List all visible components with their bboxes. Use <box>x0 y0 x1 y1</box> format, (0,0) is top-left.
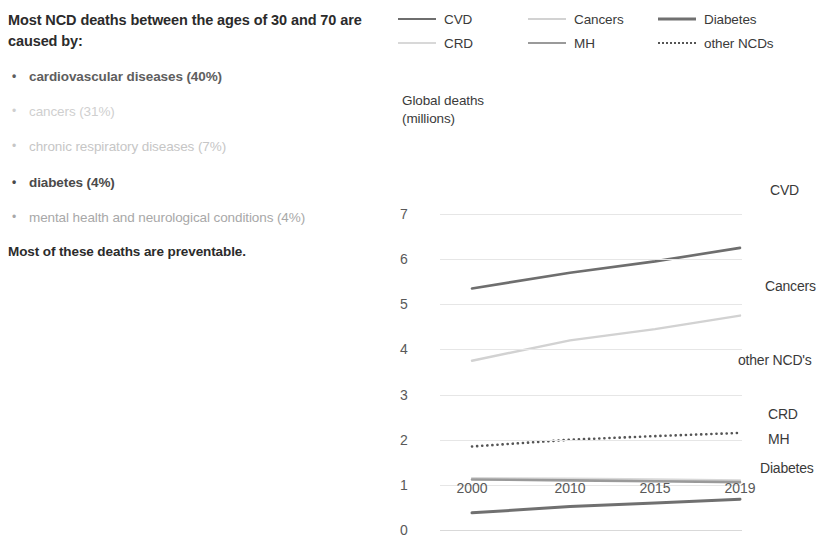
y-axis-title: Global deaths (millions) <box>402 92 484 128</box>
legend-item-diabetes: Diabetes <box>658 12 826 27</box>
y-axis-tick-label: 1 <box>400 477 422 493</box>
gridline <box>440 440 742 441</box>
legend-item-crd: CRD <box>398 36 528 51</box>
legend-item-cvd: CVD <box>398 12 528 27</box>
y-axis-tick-label: 6 <box>400 251 422 267</box>
chart-legend: CVDCancersDiabetesCRDMHother NCDs <box>398 7 826 55</box>
x-axis-tick-label: 2019 <box>724 480 755 496</box>
bullet-dot-icon: • <box>8 174 29 190</box>
list-item: •chronic respiratory diseases (7%) <box>8 138 398 156</box>
series-label: MH <box>768 431 789 447</box>
series-label: CRD <box>768 406 798 422</box>
legend-item-other-ncds: other NCDs <box>658 36 826 51</box>
series-label: other NCD's <box>738 352 812 368</box>
x-axis-tick-label: 2015 <box>639 480 670 496</box>
list-item-label: mental health and neurological condition… <box>29 209 398 227</box>
series-line-cancers <box>472 316 740 361</box>
closing-statement: Most of these deaths are preventable. <box>8 244 398 259</box>
y-axis-tick-label: 5 <box>400 296 422 312</box>
series-label: Diabetes <box>760 460 814 476</box>
list-item: •mental health and neurological conditio… <box>8 209 398 227</box>
plot-area: 765432102000201020152019 <box>398 150 828 475</box>
bullet-dot-icon: • <box>8 103 29 119</box>
x-axis-line <box>440 530 742 531</box>
y-axis-title-line2: (millions) <box>402 110 484 128</box>
gridline <box>440 214 742 215</box>
legend-item-cancers: Cancers <box>528 12 658 27</box>
series-lines <box>398 150 828 475</box>
legend-swatch-icon <box>528 41 566 45</box>
legend-swatch-icon <box>398 17 436 21</box>
y-axis-tick-label: 0 <box>400 522 422 538</box>
legend-swatch-icon <box>528 17 566 21</box>
list-item-label: cancers (31%) <box>29 103 398 121</box>
legend-label: Diabetes <box>704 12 756 27</box>
gridline <box>440 259 742 260</box>
list-item: •cardiovascular diseases (40%) <box>8 68 398 86</box>
legend-swatch-icon <box>398 41 436 45</box>
series-label: CVD <box>770 182 799 198</box>
x-axis-tick-label: 2010 <box>554 480 585 496</box>
bullet-dot-icon: • <box>8 68 29 84</box>
gridline <box>440 349 742 350</box>
series-line-cvd <box>472 248 740 289</box>
list-item-label: diabetes (4%) <box>29 174 398 192</box>
legend-label: CVD <box>444 12 472 27</box>
gridline <box>440 304 742 305</box>
list-item-label: cardiovascular diseases (40%) <box>29 68 398 86</box>
gridline <box>440 395 742 396</box>
legend-label: MH <box>574 36 595 51</box>
legend-label: other NCDs <box>704 36 774 51</box>
series-label: Cancers <box>765 278 816 294</box>
y-axis-tick-label: 7 <box>400 206 422 222</box>
y-axis-tick-label: 3 <box>400 387 422 403</box>
list-item-label: chronic respiratory diseases (7%) <box>29 138 398 156</box>
series-line-diabetes <box>472 499 740 513</box>
y-axis-title-line1: Global deaths <box>402 92 484 110</box>
legend-label: CRD <box>444 36 473 51</box>
bullet-dot-icon: • <box>8 138 29 154</box>
y-axis-tick-label: 4 <box>400 341 422 357</box>
line-chart: Global deaths (millions) 765432102000201… <box>398 92 828 497</box>
list-item: •diabetes (4%) <box>8 174 398 192</box>
text-panel: Most NCD deaths between the ages of 30 a… <box>8 10 398 259</box>
bullet-dot-icon: • <box>8 209 29 225</box>
legend-swatch-icon <box>658 41 696 45</box>
legend-swatch-icon <box>658 17 696 21</box>
x-axis-tick-label: 2000 <box>456 480 487 496</box>
list-item: •cancers (31%) <box>8 103 398 121</box>
y-axis-tick-label: 2 <box>400 432 422 448</box>
legend-item-mh: MH <box>528 36 658 51</box>
legend-label: Cancers <box>574 12 624 27</box>
page-title: Most NCD deaths between the ages of 30 a… <box>8 10 398 52</box>
cause-list: •cardiovascular diseases (40%)•cancers (… <box>8 68 398 227</box>
